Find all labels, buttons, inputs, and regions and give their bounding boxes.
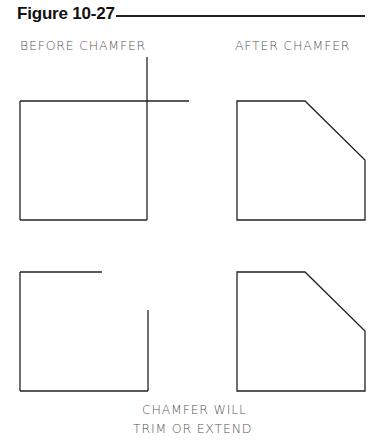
caption-line-2: TRIM OR EXTEND	[133, 421, 252, 436]
chamfer-drawings	[0, 0, 388, 441]
before-overlapping-shape	[20, 57, 189, 220]
after-chamfer-top-shape	[237, 101, 365, 220]
caption-line-1: CHAMFER WILL	[142, 402, 247, 417]
after-chamfer-bottom-shape	[237, 272, 365, 391]
before-gap-shape	[20, 272, 148, 391]
